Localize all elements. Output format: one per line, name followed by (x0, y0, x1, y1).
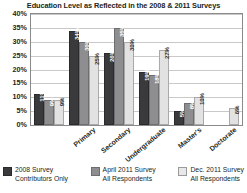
y-axis-tick-label: 30% (13, 38, 27, 45)
legend-label-line1: April 2011 Survey (103, 166, 156, 175)
y-axis-tick-label: 25% (13, 52, 27, 59)
bar-value-label: 34% (74, 28, 80, 40)
legend-label-line1: Dec. 2011 Survey (190, 166, 244, 175)
bar-value-label: 30% (129, 39, 135, 51)
bar: 25% (89, 56, 99, 125)
bar-value-label: 6% (234, 106, 240, 115)
y-axis-tick-label: 0% (17, 121, 27, 128)
bar: 19% (139, 72, 149, 125)
bar: 8% (184, 103, 194, 125)
legend-label-line2: All Respondents (190, 175, 244, 184)
bar: 34% (69, 31, 79, 125)
legend-item[interactable]: Dec. 2011 SurveyAll Respondents (178, 166, 244, 183)
bar: 30% (79, 42, 89, 125)
bar: 5% (174, 111, 184, 125)
bar-value-label: 27% (164, 47, 170, 59)
x-axis: PrimarySecondaryUndergraduateMaster'sDoc… (31, 126, 242, 160)
legend-label: April 2011 SurveyAll Respondents (103, 166, 156, 183)
bar-value-label: 30% (84, 39, 90, 51)
bar-group: 11%9%9% (31, 14, 66, 125)
legend-label-line2: Contributors Only (15, 175, 68, 184)
legend-item[interactable]: 2008 SurveyContributors Only (3, 166, 68, 183)
y-axis-tick-label: 10% (13, 94, 27, 101)
legend-swatch (3, 167, 12, 176)
bar-value-label: 10% (199, 93, 205, 105)
bar-value-label: 35% (119, 25, 125, 37)
legend-label: 2008 SurveyContributors Only (15, 166, 68, 183)
y-axis-tick-label: 20% (13, 66, 27, 73)
bar-group: 19%18%27% (137, 14, 172, 125)
bar-value-label: 25% (94, 53, 100, 65)
bars-layer: 11%9%9%34%30%25%26%35%30%19%18%27%5%8%10… (31, 14, 242, 125)
chart-legend: 2008 SurveyContributors OnlyApril 2011 S… (3, 166, 244, 191)
y-axis: 40%35%30%25%20%15%10%5%0% (0, 13, 29, 126)
bar: 9% (44, 100, 54, 125)
bar-value-label: 9% (59, 98, 65, 107)
chart-title: Education Level as Reflected in the 2008… (0, 1, 247, 10)
bar: 26% (104, 53, 114, 125)
y-axis-tick-label: 5% (17, 108, 27, 115)
legend-swatch (178, 167, 187, 176)
bar: 9% (54, 100, 64, 125)
legend-swatch (91, 167, 100, 176)
legend-label-line1: 2008 Survey (15, 166, 68, 175)
bar: 6% (229, 108, 239, 125)
bar-group: 6% (207, 14, 242, 125)
education-level-bar-chart: Education Level as Reflected in the 2008… (0, 0, 247, 193)
bar: 18% (149, 75, 159, 125)
y-axis-tick-label: 35% (13, 24, 27, 31)
legend-item[interactable]: April 2011 SurveyAll Respondents (91, 166, 156, 183)
bar: 35% (114, 28, 124, 125)
bar: 27% (159, 50, 169, 125)
bar: 10% (194, 97, 204, 125)
bar-group: 26%35%30% (101, 14, 136, 125)
legend-label: Dec. 2011 SurveyAll Respondents (190, 166, 244, 183)
bar-group: 5%8%10% (172, 14, 207, 125)
bar: 30% (124, 42, 134, 125)
bar: 11% (34, 94, 44, 125)
y-axis-tick-label: 15% (13, 80, 27, 87)
y-axis-tick-label: 40% (13, 10, 27, 17)
legend-label-line2: All Respondents (103, 175, 156, 184)
bar-group: 34%30%25% (66, 14, 101, 125)
